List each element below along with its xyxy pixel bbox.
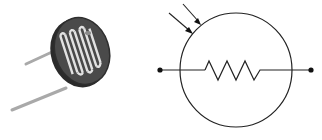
left-terminal-dot [157, 67, 162, 72]
photoresistor-photo: Photoresistor photo [0, 0, 120, 140]
schematic-svg [140, 0, 322, 140]
zigzag-resistor-icon [205, 61, 264, 80]
highlight [85, 31, 91, 35]
photoresistor-illustration [0, 0, 120, 140]
lead-upper [26, 52, 52, 64]
right-terminal-dot [308, 67, 313, 72]
lead-lower [12, 88, 66, 110]
photoresistor-schematic-symbol: Photoresistor schematic symbol [140, 0, 322, 140]
